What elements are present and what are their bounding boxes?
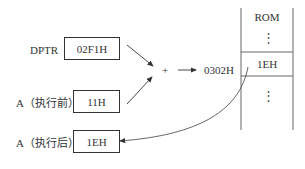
rom-title: ROM (241, 10, 293, 24)
rom-bottom-ellipsis-icon: ⋮ (262, 89, 272, 102)
plus-operator: + (162, 64, 168, 76)
a-after-value: 1EH (86, 136, 106, 148)
a-after-register-box: 1EH (73, 130, 120, 153)
result-address: 0302H (204, 64, 234, 76)
rom-top-ellipsis-icon: ⋮ (262, 31, 272, 44)
dptr-register-box: 02F1H (64, 37, 120, 60)
a-after-label: A（执行后） (16, 137, 79, 149)
rom-cell-value: 1EH (241, 52, 293, 76)
a-before-label: A（执行前） (16, 97, 79, 109)
dptr-value: 02F1H (77, 43, 108, 55)
dptr-label: DPTR (30, 44, 58, 56)
a-before-register-box: 11H (73, 90, 120, 113)
a-before-value: 11H (87, 96, 106, 108)
